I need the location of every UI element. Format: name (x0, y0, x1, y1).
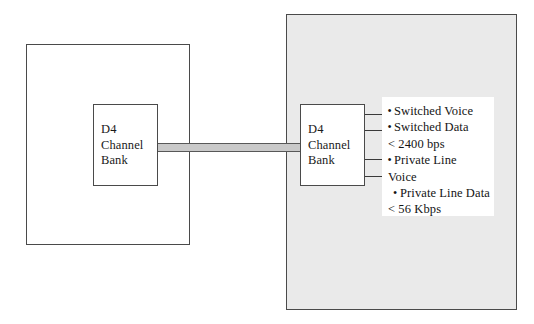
service-item-private-line-voice: Voice (388, 169, 492, 185)
service-item-switched-data: Switched Data (388, 119, 492, 135)
service-item-private-line: Private Line (388, 152, 492, 168)
trunk-connector (157, 143, 301, 152)
service-item-switched-data-rate: < 2400 bps (388, 136, 492, 152)
diagram-canvas: D4 Channel Bank D4 Channel Bank Switched… (0, 0, 534, 324)
service-item-switched-voice: Switched Voice (388, 103, 492, 119)
d4-channel-bank-right-label: D4 Channel Bank (308, 122, 350, 169)
service-item-private-line-data: Private Line Data (388, 185, 492, 201)
d4-channel-bank-right: D4 Channel Bank (300, 104, 365, 186)
d4-channel-bank-left-label: D4 Channel Bank (101, 122, 143, 169)
service-item-private-line-rate: < 56 Kbps (388, 201, 492, 217)
d4-channel-bank-left: D4 Channel Bank (93, 104, 158, 186)
services-list: Switched Voice Switched Data < 2400 bps … (388, 103, 492, 218)
